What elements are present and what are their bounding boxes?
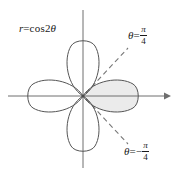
angle-pos-equals: = <box>133 29 139 41</box>
curve-equation-label: r=cos2θ <box>19 23 56 34</box>
angle-label-negative: θ=−π4 <box>124 141 149 162</box>
angle-neg-sign: − <box>136 145 142 157</box>
angle-pos-denominator: 4 <box>140 37 147 47</box>
curve-angle-symbol: θ <box>51 22 56 34</box>
x-axis-arrow-icon <box>164 93 171 100</box>
origin-point <box>81 94 84 97</box>
angle-pos-numerator: π <box>140 25 147 35</box>
angle-neg-denominator: 4 <box>142 153 149 163</box>
curve-function: cos <box>30 22 46 34</box>
rose-curve-figure: r=cos2θ θ=π4 θ=−π4 <box>0 0 177 175</box>
angle-neg-numerator: π <box>142 141 149 151</box>
angle-label-positive: θ=π4 <box>128 25 147 46</box>
angle-neg-fraction: π4 <box>142 141 149 162</box>
angle-pos-fraction: π4 <box>140 25 147 46</box>
